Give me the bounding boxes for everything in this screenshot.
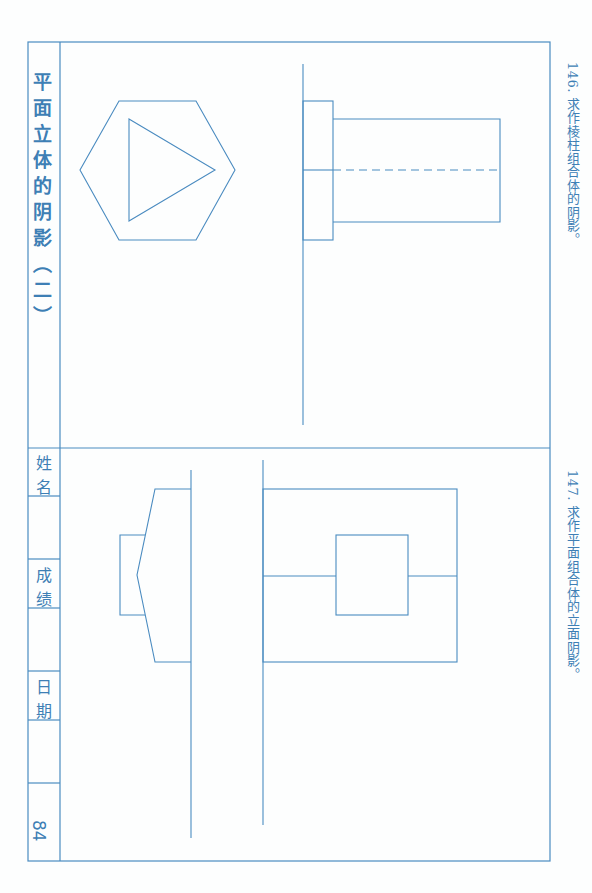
drawing-147-elevation [263,460,457,825]
grade-label: 成绩 [30,567,54,615]
problem-146-statement: 146. 求作棱柱组合体的阴影。 [563,62,582,246]
page-number: 84 [29,820,49,842]
outer-frame [28,42,550,861]
problem-147-statement: 147. 求作平面组合体的立面阴影。 [563,470,582,681]
date-label: 日期 [30,679,54,727]
page-title: 平面立体的阴影（二） [28,72,55,332]
drawing-146-plan [80,101,235,240]
name-label: 姓名 [30,455,54,503]
worksheet-page: 平面立体的阴影（二） 146. 求作棱柱组合体的阴影。 147. 求作平面组合体… [0,0,592,893]
drawing-147-plan [120,470,191,838]
drawing-146-elevation [303,64,500,425]
drawing-canvas [0,0,592,893]
